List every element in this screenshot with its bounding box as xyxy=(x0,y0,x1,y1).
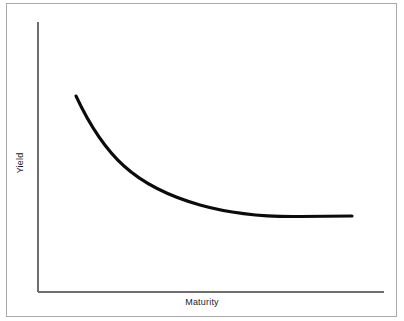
y-axis-label: Yield xyxy=(15,131,25,195)
yield-curve-line xyxy=(76,96,352,217)
chart-figure: Maturity Yield xyxy=(0,0,404,321)
x-axis-label: Maturity xyxy=(0,297,404,307)
plot-area xyxy=(0,0,404,321)
